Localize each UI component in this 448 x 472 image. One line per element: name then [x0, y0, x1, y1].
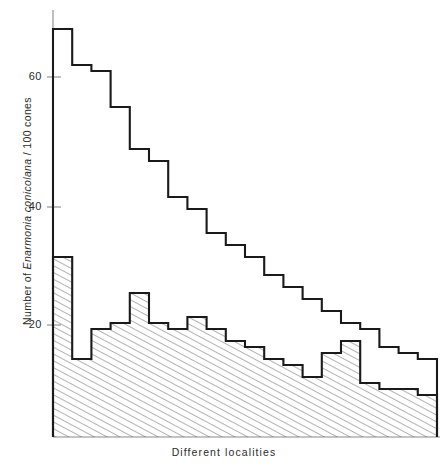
- y-tick-label-60: 60: [16, 70, 42, 82]
- figure: 60 40 20 Number of Enarmonia conicolana …: [0, 0, 448, 472]
- y-axis-label-prefix: Number of: [21, 269, 33, 324]
- y-axis-label-species: Enarmonia conicolana: [21, 159, 33, 270]
- y-axis-label: Number of Enarmonia conicolana / 100 con…: [21, 96, 33, 326]
- x-axis-label: Different localities: [0, 446, 448, 458]
- chart-canvas: [0, 0, 448, 472]
- y-axis-label-suffix: / 100 cones: [21, 97, 33, 158]
